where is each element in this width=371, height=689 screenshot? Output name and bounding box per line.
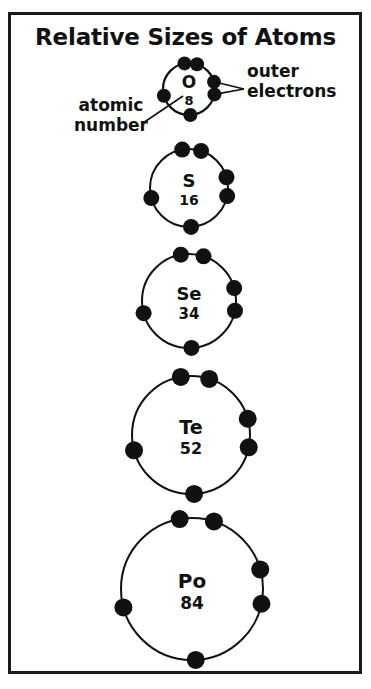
outer-electron-dot [205,512,223,530]
atoms-group: O8S16Se34Te52Po84 [114,56,270,669]
label-outer-electrons: outer electrons [247,62,367,101]
label-atomic-number-line1: atomic [56,96,166,116]
atom-po: Po84 [114,510,270,669]
element-symbol: Po [178,569,206,593]
outer-electron-dot [200,370,218,388]
outer-electron-dot [227,303,243,319]
outer-electron-dot [226,280,242,296]
atom-o: O8 [157,56,222,122]
outer-electron-dot [177,56,191,70]
outer-electron-dot [196,248,212,264]
outer-electron-dot [252,595,270,613]
outer-electron-dot [136,305,152,321]
outer-electron-dot [187,651,205,669]
label-outer-electrons-line1: outer [247,62,367,82]
outer-electron-dot [143,190,159,206]
atomic-number-value: 8 [184,93,193,108]
outer-electron-dot [183,108,197,122]
element-symbol: Te [179,416,202,438]
outer-electron-dot [239,410,257,428]
element-symbol: S [183,170,196,191]
element-symbol: O [182,72,196,92]
outer-electron-dot [171,510,189,528]
element-symbol: Se [176,283,201,304]
outer-electron-dot [190,57,204,71]
atom-sizes-figure: Relative Sizes of Atoms O8S16Se34Te52Po8… [0,0,371,689]
atom-se: Se34 [136,247,243,356]
label-atomic-number-line2: number [56,116,166,136]
outer-electron-dot [240,438,258,456]
outer-electron-dot [219,188,235,204]
outer-electron-dot [114,598,132,616]
outer-electron-dot [218,169,234,185]
atomic-number-value: 16 [179,192,198,208]
outer-electron-dot [183,219,199,235]
label-outer-electrons-line2: electrons [247,82,367,102]
label-atomic-number: atomic number [56,96,166,135]
atomic-number-value: 52 [180,439,202,458]
atomic-number-value: 84 [180,593,204,613]
outer-electron-dot [172,368,190,386]
outer-electron-dot [173,247,189,263]
outer-electron-dot [251,560,269,578]
outer-electron-dot [185,485,203,503]
outer-electron-dot [125,441,143,459]
atom-s: S16 [143,142,235,235]
outer-electron-dot [183,340,199,356]
outer-electron-dot [174,142,190,158]
atom-te: Te52 [125,368,258,503]
outer-electron-dot [193,143,209,159]
atomic-number-value: 34 [179,305,200,323]
